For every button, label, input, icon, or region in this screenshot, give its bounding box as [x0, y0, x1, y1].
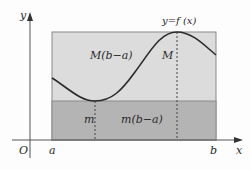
b-label: b [210, 145, 217, 156]
upper-area-label: M(b−a) [90, 50, 133, 61]
function-label: y=f (x) [162, 16, 196, 26]
origin-label: O [19, 145, 28, 156]
a-label: a [49, 145, 56, 156]
y-axis-arrow-icon [27, 12, 33, 21]
max-label: M [162, 50, 173, 61]
min-label: m [84, 114, 94, 125]
x-axis-arrow-icon [234, 137, 243, 143]
integral-estimate-diagram: y x O a b y=f (x) M(b−a) M m m(b−a) [0, 0, 251, 170]
lower-area-label: m(b−a) [121, 114, 163, 125]
x-axis-label: x [236, 145, 242, 156]
y-axis-label: y [20, 10, 26, 21]
